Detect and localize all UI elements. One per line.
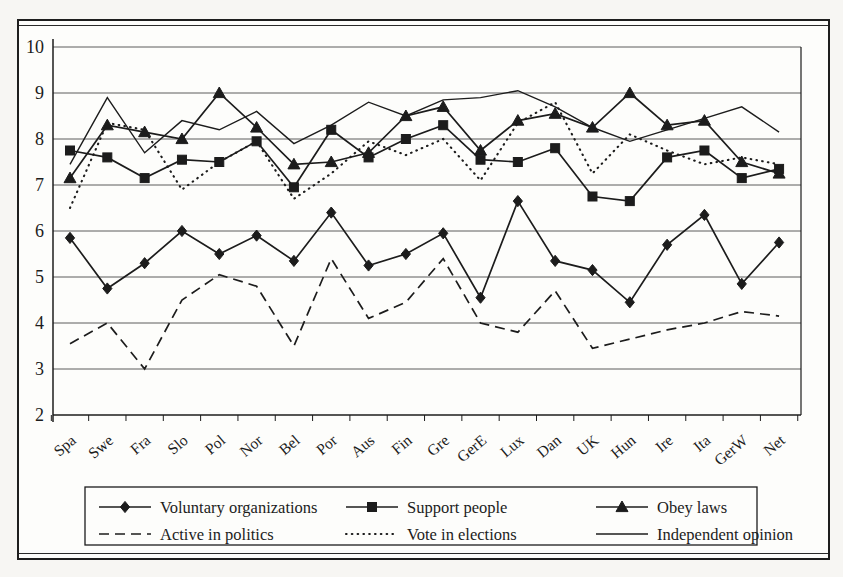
series-line-support-people xyxy=(70,125,779,201)
y-tick-label-10: 10 xyxy=(26,37,44,57)
x-tick-label-dan: Dan xyxy=(533,431,564,461)
y-tick-label-4: 4 xyxy=(35,313,44,333)
x-tick-label-fra: Fra xyxy=(127,431,154,457)
x-tick-label-nor: Nor xyxy=(236,431,266,460)
x-axis-ticks xyxy=(51,415,797,421)
x-tick-label-gre: Gre xyxy=(423,431,452,459)
line-chart: 2345678910SpaSweFraSloPolNorBelPorAusFin… xyxy=(19,21,828,554)
legend-item-obey-laws: Obey laws xyxy=(596,498,727,517)
series-line-obey-laws xyxy=(70,93,779,178)
legend-label-active-in-politics: Active in politics xyxy=(160,525,274,544)
frame-double-rule-top xyxy=(19,25,828,26)
x-tick-label-hun: Hun xyxy=(607,431,639,461)
x-tick-label-fin: Fin xyxy=(388,431,415,457)
y-tick-label-9: 9 xyxy=(35,83,44,103)
legend-label-vote-in-elections: Vote in elections xyxy=(407,525,517,544)
x-tick-label-lux: Lux xyxy=(497,431,527,460)
legend: Voluntary organizationsSupport peopleObe… xyxy=(85,487,793,545)
x-tick-label-gere: GerE xyxy=(453,431,489,465)
x-tick-label-spa: Spa xyxy=(50,431,79,459)
legend-square-icon xyxy=(368,503,377,512)
y-tick-label-3: 3 xyxy=(35,359,44,379)
legend-item-voluntary-organizations: Voluntary organizations xyxy=(99,498,318,517)
y-tick-label-5: 5 xyxy=(35,267,44,287)
series-line-vote-in-elections xyxy=(70,102,779,208)
legend-diamond-icon xyxy=(120,501,129,512)
chart-frame: 2345678910SpaSweFraSloPolNorBelPorAusFin… xyxy=(17,19,830,560)
x-tick-label-ita: Ita xyxy=(690,431,714,455)
series-markers-voluntary-organizations xyxy=(65,196,783,308)
y-tick-label-6: 6 xyxy=(35,221,44,241)
x-tick-label-slo: Slo xyxy=(164,431,191,457)
x-tick-label-net: Net xyxy=(760,431,789,459)
series-line-voluntary-organizations xyxy=(70,201,779,302)
legend-item-independent-opinion: Independent opinion xyxy=(596,525,793,544)
series-line-active-in-politics xyxy=(70,259,779,369)
legend-label-independent-opinion: Independent opinion xyxy=(657,525,793,544)
x-tick-label-bel: Bel xyxy=(275,431,302,458)
x-tick-label-swe: Swe xyxy=(85,431,116,461)
frame-double-rule-bottom xyxy=(19,553,828,554)
legend-item-support-people: Support people xyxy=(346,498,507,517)
legend-label-voluntary-organizations: Voluntary organizations xyxy=(160,498,318,517)
x-tick-label-pol: Pol xyxy=(201,431,228,457)
x-axis-labels: SpaSweFraSloPolNorBelPorAusFinGreGerELux… xyxy=(50,431,788,469)
y-tick-label-2: 2 xyxy=(35,405,44,425)
legend-label-obey-laws: Obey laws xyxy=(657,498,727,517)
x-tick-label-gerw: GerW xyxy=(711,431,751,469)
x-tick-label-aus: Aus xyxy=(347,431,377,460)
legend-item-active-in-politics: Active in politics xyxy=(99,525,274,544)
x-tick-label-uk: UK xyxy=(573,431,602,459)
y-tick-label-8: 8 xyxy=(35,129,44,149)
legend-item-vote-in-elections: Vote in elections xyxy=(346,525,517,544)
series-markers-obey-laws xyxy=(64,87,785,183)
x-tick-label-por: Por xyxy=(313,431,341,458)
legend-label-support-people: Support people xyxy=(407,498,507,517)
x-tick-label-ire: Ire xyxy=(652,431,676,455)
y-tick-label-7: 7 xyxy=(35,175,44,195)
